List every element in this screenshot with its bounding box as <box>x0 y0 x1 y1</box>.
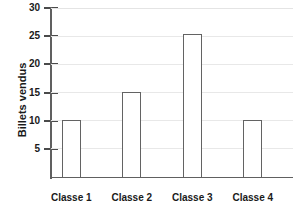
y-axis-tick-label-wrap: 5 <box>10 144 40 154</box>
y-axis-tick-label-wrap: 20 <box>10 59 40 69</box>
bar-chart: Billets vendus 51015202530 Classe 1Class… <box>0 0 299 211</box>
y-axis-tick-label: 30 <box>14 3 40 13</box>
x-axis-line <box>51 177 293 178</box>
plot-area <box>51 8 293 177</box>
bar <box>122 92 141 177</box>
y-axis-tick-label: 20 <box>14 59 40 69</box>
y-axis-tick-label-wrap: 30 <box>10 3 40 13</box>
gridline <box>51 36 293 37</box>
y-axis-tick-label-wrap: 10 <box>10 116 40 126</box>
bar <box>243 120 262 177</box>
bar <box>62 120 81 177</box>
gridline <box>51 64 293 65</box>
gridline <box>51 92 293 93</box>
gridline <box>51 8 293 9</box>
y-axis-tick-label: 5 <box>14 144 40 154</box>
y-axis-tick-label: 25 <box>14 31 40 41</box>
y-axis-tick-label-wrap: 25 <box>10 31 40 41</box>
y-axis-tick-label: 10 <box>14 116 40 126</box>
y-axis-tick-label: 15 <box>14 88 40 98</box>
y-axis-tick-label-wrap: 15 <box>10 88 40 98</box>
x-axis-category-label: Classe 4 <box>213 192 293 203</box>
bar <box>183 34 202 177</box>
